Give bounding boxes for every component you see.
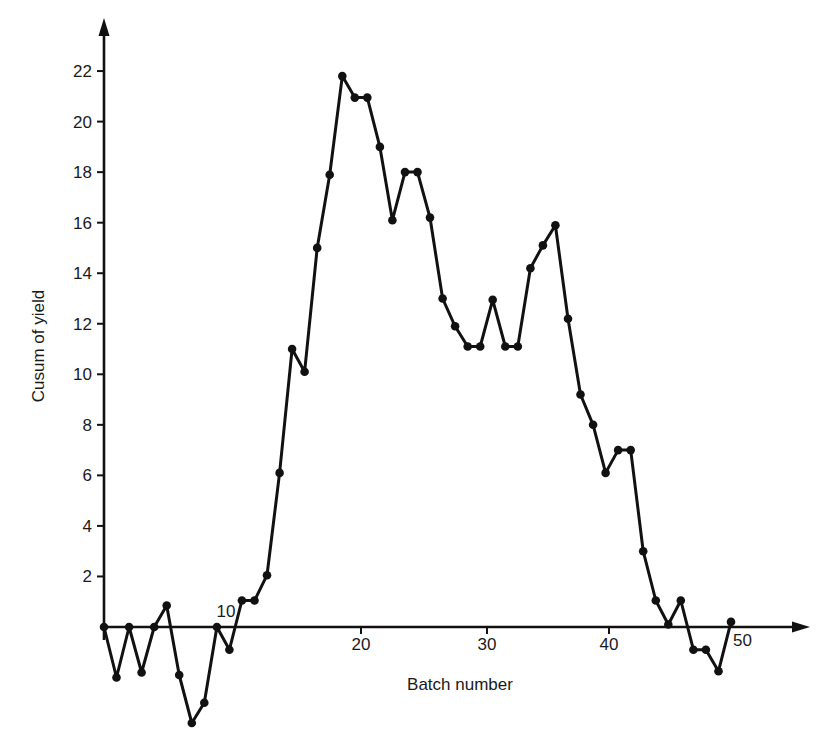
- data-point: [727, 618, 736, 627]
- data-point: [526, 264, 535, 273]
- x-tick-label: 40: [600, 635, 619, 654]
- data-point: [539, 241, 548, 250]
- data-point: [401, 168, 410, 177]
- data-point: [137, 668, 146, 677]
- data-point: [175, 671, 184, 680]
- y-tick-label: 14: [73, 264, 92, 283]
- y-axis-title: Cusum of yield: [29, 290, 48, 402]
- data-point: [150, 623, 159, 632]
- y-tick-label: 4: [83, 517, 92, 536]
- x-tick-label: 20: [352, 635, 371, 654]
- data-point: [363, 93, 372, 102]
- y-tick-label: 6: [83, 466, 92, 485]
- data-point: [125, 623, 134, 632]
- y-tick-label: 20: [73, 113, 92, 132]
- data-point: [564, 314, 573, 323]
- data-point: [514, 342, 523, 351]
- data-point: [288, 345, 297, 354]
- data-point: [112, 673, 121, 682]
- data-point: [614, 446, 623, 455]
- data-point: [488, 296, 497, 305]
- y-tick-label: 10: [73, 365, 92, 384]
- data-point: [162, 601, 171, 610]
- y-tick-label: 16: [73, 214, 92, 233]
- data-point: [551, 221, 560, 230]
- data-point: [100, 623, 109, 632]
- data-point: [351, 93, 360, 102]
- data-point: [664, 620, 673, 629]
- data-point: [476, 342, 485, 351]
- data-point: [388, 216, 397, 225]
- chart-background: [0, 0, 832, 750]
- data-point: [626, 446, 635, 455]
- data-point: [714, 667, 723, 676]
- data-point: [601, 469, 610, 478]
- data-point: [376, 143, 385, 152]
- data-point: [589, 421, 598, 430]
- x-axis-title: Batch number: [407, 675, 513, 694]
- y-tick-label: 12: [73, 315, 92, 334]
- data-point: [652, 596, 661, 605]
- data-point: [576, 390, 585, 399]
- data-point: [501, 342, 510, 351]
- data-point: [639, 547, 648, 556]
- y-tick-label: 2: [83, 567, 92, 586]
- x-tick-label: 50: [733, 631, 752, 650]
- data-point: [702, 645, 711, 654]
- data-point: [413, 168, 422, 177]
- data-point: [463, 342, 472, 351]
- data-point: [188, 719, 197, 728]
- data-point: [677, 596, 686, 605]
- y-tick-label: 18: [73, 163, 92, 182]
- data-point: [200, 699, 209, 708]
- data-point: [338, 72, 347, 81]
- data-point: [325, 170, 334, 179]
- cusum-chart: 246810121416182022 Cusum of yield 102030…: [0, 0, 832, 750]
- data-point: [238, 596, 247, 605]
- data-point: [426, 213, 435, 222]
- data-point: [300, 368, 309, 377]
- data-point: [225, 645, 234, 654]
- data-point: [250, 596, 259, 605]
- y-tick-label: 22: [73, 62, 92, 81]
- x-tick-label: 10: [217, 602, 236, 621]
- data-point: [438, 294, 447, 303]
- data-point: [263, 571, 272, 580]
- data-point: [451, 322, 460, 331]
- data-point: [275, 469, 284, 478]
- data-point: [689, 645, 698, 654]
- data-point: [213, 623, 222, 632]
- x-tick-label: 30: [478, 635, 497, 654]
- data-point: [313, 244, 322, 253]
- y-tick-label: 8: [83, 416, 92, 435]
